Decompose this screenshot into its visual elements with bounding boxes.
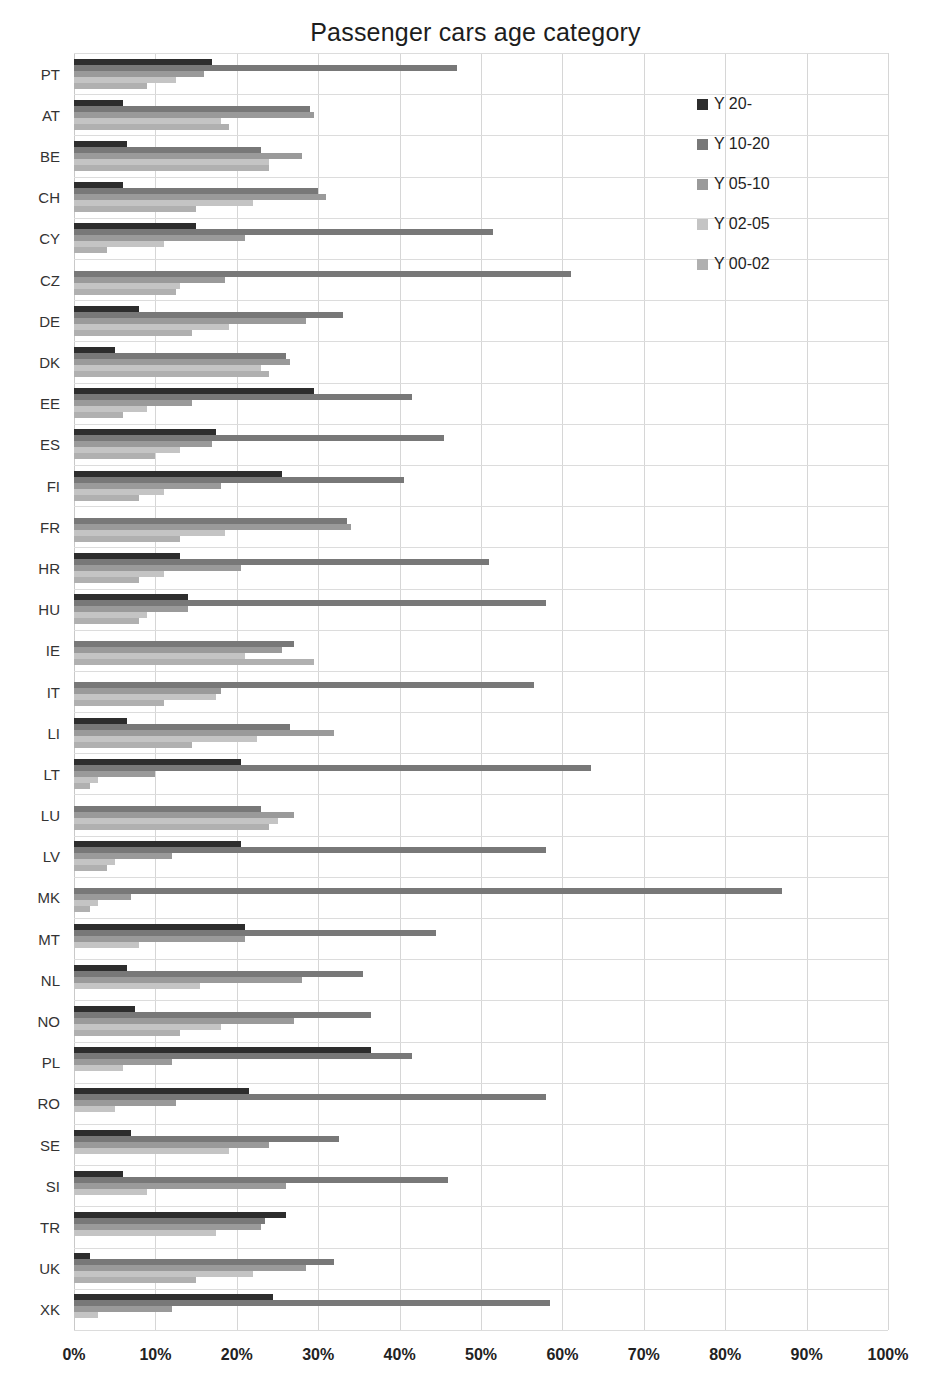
bar-group-lt	[74, 753, 888, 794]
bar-hu-series-4	[74, 618, 139, 624]
bar-group-lv	[74, 836, 888, 877]
x-axis-tick-30: 30%	[302, 1346, 334, 1364]
y-axis-tick-mt: MT	[38, 930, 60, 947]
bar-ro-series-3	[74, 1106, 115, 1112]
gridline-horizontal	[74, 1330, 888, 1331]
y-axis-tick-pl: PL	[42, 1054, 60, 1071]
legend-swatch-icon	[697, 139, 708, 150]
y-axis-tick-ee: EE	[40, 395, 60, 412]
bar-group-hu	[74, 589, 888, 630]
bar-at-series-4	[74, 124, 229, 130]
bar-pt-series-4	[74, 83, 147, 89]
bar-se-series-3	[74, 1148, 229, 1154]
y-axis-tick-nl: NL	[41, 971, 60, 988]
x-axis-tick-70: 70%	[628, 1346, 660, 1364]
y-axis-tick-lt: LT	[44, 765, 60, 782]
bar-group-mt	[74, 918, 888, 959]
x-axis-tick-40: 40%	[384, 1346, 416, 1364]
bar-lv-series-4	[74, 865, 107, 871]
legend-item-0[interactable]: Y 20-	[697, 84, 877, 124]
bar-uk-series-4	[74, 1277, 196, 1283]
bar-ch-series-4	[74, 206, 196, 212]
bar-cy-series-4	[74, 247, 107, 253]
y-axis-tick-no: NO	[38, 1013, 61, 1030]
bar-pl-series-3	[74, 1065, 123, 1071]
bar-group-fr	[74, 506, 888, 547]
y-axis-tick-uk: UK	[39, 1260, 60, 1277]
bar-group-hr	[74, 547, 888, 588]
bar-group-xk	[74, 1289, 888, 1330]
legend-label: Y 20-	[714, 95, 752, 113]
y-axis-tick-hr: HR	[38, 559, 60, 576]
bar-group-pl	[74, 1042, 888, 1083]
legend-label: Y 10-20	[714, 135, 770, 153]
bar-cz-series-4	[74, 289, 176, 295]
bar-mk-series-1	[74, 888, 782, 894]
y-axis-tick-at: AT	[42, 106, 60, 123]
y-axis-tick-be: BE	[40, 147, 60, 164]
bar-group-lu	[74, 794, 888, 835]
bar-lt-series-4	[74, 783, 90, 789]
y-axis-tick-ro: RO	[38, 1095, 61, 1112]
bar-group-nl	[74, 959, 888, 1000]
y-axis-tick-pt: PT	[41, 65, 60, 82]
y-axis-tick-lv: LV	[43, 848, 60, 865]
y-axis-tick-cy: CY	[39, 230, 60, 247]
legend-item-1[interactable]: Y 10-20	[697, 124, 877, 164]
legend-item-3[interactable]: Y 02-05	[697, 204, 877, 244]
y-axis-tick-dk: DK	[39, 353, 60, 370]
bar-no-series-4	[74, 1030, 180, 1036]
bar-group-ee	[74, 383, 888, 424]
x-axis-tick-80: 80%	[709, 1346, 741, 1364]
bar-ie-series-4	[74, 659, 314, 665]
bar-it-series-4	[74, 700, 164, 706]
legend-label: Y 05-10	[714, 175, 770, 193]
bar-si-series-3	[74, 1189, 147, 1195]
bar-fr-series-4	[74, 536, 180, 542]
y-axis-tick-mk: MK	[38, 889, 61, 906]
y-axis-labels: PTATBECHCYCZDEDKEEESFIFRHRHUIEITLILTLULV…	[0, 53, 70, 1330]
y-axis-tick-cz: CZ	[40, 271, 60, 288]
bar-group-ie	[74, 630, 888, 671]
y-axis-tick-lu: LU	[41, 807, 60, 824]
bar-de-series-4	[74, 330, 192, 336]
legend-swatch-icon	[697, 219, 708, 230]
y-axis-tick-fr: FR	[40, 518, 60, 535]
y-axis-tick-se: SE	[40, 1136, 60, 1153]
x-axis-tick-0: 0%	[62, 1346, 85, 1364]
legend-item-2[interactable]: Y 05-10	[697, 164, 877, 204]
bar-hr-series-4	[74, 577, 139, 583]
bar-group-it	[74, 671, 888, 712]
y-axis-tick-ch: CH	[38, 189, 60, 206]
y-axis-tick-it: IT	[47, 683, 60, 700]
y-axis-tick-fi: FI	[47, 477, 60, 494]
bar-group-es	[74, 424, 888, 465]
bar-group-dk	[74, 341, 888, 382]
bar-group-tr	[74, 1206, 888, 1247]
bar-es-series-4	[74, 453, 155, 459]
bar-group-no	[74, 1000, 888, 1041]
legend-swatch-icon	[697, 179, 708, 190]
x-axis-tick-100: 100%	[868, 1346, 909, 1364]
chart-title: Passenger cars age category	[0, 18, 937, 47]
bar-group-uk	[74, 1248, 888, 1289]
legend-label: Y 00-02	[714, 255, 770, 273]
bar-xk-series-3	[74, 1312, 98, 1318]
bar-group-si	[74, 1165, 888, 1206]
x-axis-tick-50: 50%	[465, 1346, 497, 1364]
legend-item-4[interactable]: Y 00-02	[697, 244, 877, 284]
x-axis-tick-20: 20%	[221, 1346, 253, 1364]
x-axis-tick-90: 90%	[791, 1346, 823, 1364]
y-axis-tick-de: DE	[39, 312, 60, 329]
x-axis-labels: 0%10%20%30%40%50%60%70%80%90%100%	[0, 1340, 937, 1374]
bar-mk-series-4	[74, 906, 90, 912]
y-axis-tick-xk: XK	[40, 1301, 60, 1318]
bar-group-fi	[74, 465, 888, 506]
bar-mt-series-3	[74, 942, 139, 948]
y-axis-tick-ie: IE	[46, 642, 60, 659]
bar-dk-series-4	[74, 371, 269, 377]
bar-fi-series-4	[74, 495, 139, 501]
chart-root: Passenger cars age category PTATBECHCYCZ…	[0, 0, 937, 1396]
y-axis-tick-li: LI	[47, 724, 60, 741]
y-axis-tick-es: ES	[40, 436, 60, 453]
